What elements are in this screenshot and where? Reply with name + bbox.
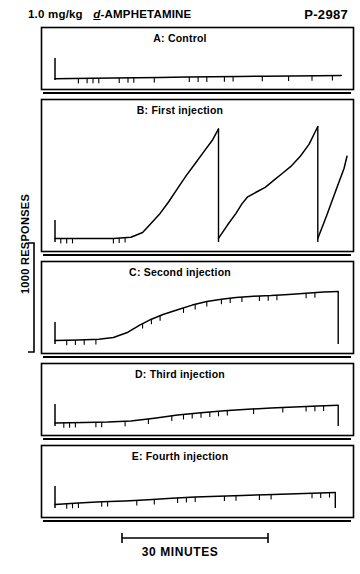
curve-group-C <box>55 292 338 345</box>
response-curve-B-2 <box>219 127 318 239</box>
cumulative-record-plot <box>0 0 360 574</box>
pip-group-C <box>67 293 315 346</box>
panel-label-C: C: Second injection <box>0 266 360 278</box>
response-curve-B-3 <box>318 156 347 238</box>
curve-group-B <box>55 127 347 242</box>
response-curve-B-1 <box>55 129 219 239</box>
response-curve-C-1 <box>55 292 338 341</box>
pip-group-E <box>67 493 330 509</box>
panel-label-D: D: Third injection <box>0 368 360 380</box>
curve-group-D <box>55 405 338 426</box>
y-axis-scale-bracket <box>28 243 34 352</box>
x-axis-scale-bar <box>122 533 268 543</box>
panel-border-B <box>42 100 354 252</box>
panel-label-A: A: Control <box>0 32 360 44</box>
panel-label-E: E: Fourth injection <box>0 450 360 462</box>
response-curve-D-1 <box>55 405 338 423</box>
pip-group-D <box>64 406 324 428</box>
panel-label-B: B: First injection <box>0 104 360 116</box>
cumulative-record-figure: 1.0 mg/kg d-AMPHETAMINE P-2987 1000 RESP… <box>0 0 360 574</box>
